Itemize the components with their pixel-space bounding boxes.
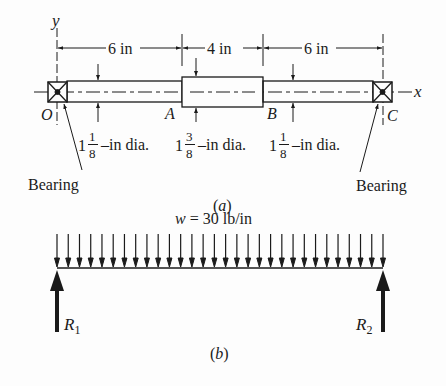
dimension-label-bc: 6 in	[304, 40, 328, 57]
reaction-r1-label: R1	[63, 315, 80, 337]
load-arrow-head-icon	[324, 258, 329, 267]
load-label: w = 30 lb/in	[175, 210, 252, 227]
load-arrow-head-icon	[66, 258, 71, 267]
load-arrow-head-icon	[99, 258, 104, 267]
load-arrow-head-icon	[257, 258, 262, 267]
svg-text:1: 1	[269, 137, 277, 154]
bearing-right-label: Bearing	[356, 177, 407, 195]
bearing-left-label: Bearing	[28, 176, 79, 194]
load-arrow-head-icon	[268, 258, 273, 267]
diameter-label-oa: 1 1 8 –in dia.	[78, 129, 149, 161]
svg-text:8: 8	[186, 146, 193, 161]
svg-text:1: 1	[175, 137, 183, 154]
bearing-right-leader	[360, 104, 378, 172]
figure-b-caption: (b)	[210, 345, 229, 363]
diameter-label-bc: 1 1 8 –in dia.	[269, 129, 340, 161]
load-arrow-head-icon	[358, 258, 363, 267]
load-arrow-head-icon	[156, 258, 161, 267]
point-label-o: O	[41, 106, 53, 123]
load-arrow-head-icon	[144, 258, 149, 267]
bearing-right-icon	[373, 82, 392, 102]
y-axis-label: y	[50, 11, 60, 30]
load-arrow-head-icon	[133, 258, 138, 267]
load-arrow-head-icon	[302, 258, 307, 267]
load-arrow-head-icon	[55, 258, 60, 267]
load-arrow-head-icon	[291, 258, 296, 267]
load-arrow-head-icon	[189, 258, 194, 267]
svg-text:8: 8	[89, 146, 96, 161]
load-arrow-head-icon	[234, 258, 239, 267]
load-arrow-head-icon	[167, 258, 172, 267]
load-arrow-head-icon	[88, 258, 93, 267]
load-arrow-head-icon	[111, 258, 116, 267]
svg-text:1: 1	[78, 137, 86, 154]
svg-text:–in dia.: –in dia.	[197, 136, 246, 153]
load-arrow-head-icon	[201, 258, 206, 267]
load-arrow-head-icon	[246, 258, 251, 267]
svg-text:1: 1	[89, 129, 96, 144]
load-arrow-head-icon	[347, 258, 352, 267]
load-arrow-head-icon	[313, 258, 318, 267]
bearing-left-icon	[48, 82, 67, 102]
load-arrow-head-icon	[381, 258, 386, 267]
load-arrow-head-icon	[212, 258, 217, 267]
reaction-r2-label: R2	[355, 315, 372, 337]
svg-text:3: 3	[186, 129, 193, 144]
beam-b	[50, 234, 390, 332]
point-label-a: A	[164, 105, 175, 122]
point-label-b: B	[267, 105, 277, 122]
load-arrow-head-icon	[122, 258, 127, 267]
x-axis-label: x	[413, 82, 422, 101]
svg-text:8: 8	[280, 146, 287, 161]
dimension-label-oa: 6 in	[108, 40, 132, 57]
distributed-load-arrows	[55, 234, 386, 267]
svg-text:–in dia.: –in dia.	[100, 136, 149, 153]
shaft-diagram-figure: y x 6 in 4 in 6 in O A B C 1 1 8 –in dia…	[0, 0, 446, 386]
load-arrow-head-icon	[77, 258, 82, 267]
load-arrow-head-icon	[178, 258, 183, 267]
load-arrow-head-icon	[279, 258, 284, 267]
point-label-c: C	[387, 107, 398, 124]
svg-text:–in dia.: –in dia.	[291, 136, 340, 153]
svg-text:1: 1	[280, 129, 287, 144]
load-arrow-head-icon	[369, 258, 374, 267]
diameter-label-ab: 1 3 8 –in dia.	[175, 129, 246, 161]
dimension-label-ab: 4 in	[207, 40, 231, 57]
load-arrow-head-icon	[336, 258, 341, 267]
load-arrow-head-icon	[223, 258, 228, 267]
